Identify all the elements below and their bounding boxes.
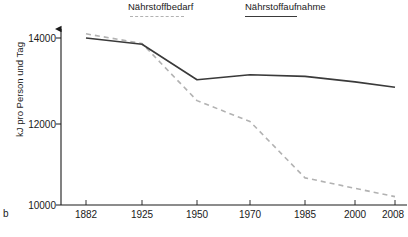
series-line-nahrstoffaufnahme [86, 38, 395, 87]
x-axis-tick-marks [86, 200, 395, 205]
chart-plot-area [0, 0, 408, 237]
chart-figure: Nährstoffbedarf Nährstoffaufnahme kJ pro… [0, 0, 408, 237]
y-axis-tick-marks [56, 38, 61, 205]
series-line-nahrstoffbedarf [86, 34, 395, 197]
